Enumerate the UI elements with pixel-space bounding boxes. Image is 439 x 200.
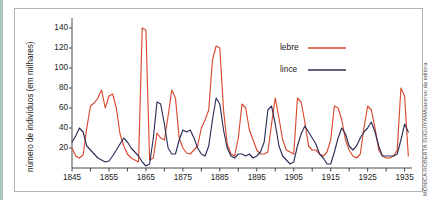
x-tick-label: 1875 xyxy=(165,173,201,182)
y-tick-label: 60 xyxy=(40,103,68,112)
y-tick-label: 100 xyxy=(40,63,68,72)
chart-figure: número de indivíduos (em milhares) 20406… xyxy=(0,0,439,200)
legend-label-lince: lince xyxy=(280,64,297,74)
y-axis-title: número de indivíduos (em milhares) xyxy=(26,41,35,172)
x-tick-label: 1925 xyxy=(350,173,386,182)
image-credit: MÔNICA ROBERTA SUGUIYAMA/acervo da edito… xyxy=(422,62,428,196)
x-tick-label: 1845 xyxy=(54,173,90,182)
y-tick-label: 120 xyxy=(40,43,68,52)
y-tick-label: 40 xyxy=(40,123,68,132)
x-tick-label: 1885 xyxy=(202,173,238,182)
x-tick-label: 1855 xyxy=(91,173,127,182)
data-series xyxy=(72,28,408,166)
x-tick-label: 1915 xyxy=(313,173,349,182)
y-tick-label: 80 xyxy=(40,83,68,92)
x-tick-label: 1865 xyxy=(128,173,164,182)
y-tick-label: 140 xyxy=(40,23,68,32)
x-tick-label: 1895 xyxy=(239,173,275,182)
legend-swatches xyxy=(308,48,346,70)
legend-label-lebre: lebre xyxy=(280,42,299,52)
x-tick-label: 1905 xyxy=(276,173,312,182)
y-tick-label: 20 xyxy=(40,143,68,152)
x-tick-label: 1935 xyxy=(387,173,423,182)
